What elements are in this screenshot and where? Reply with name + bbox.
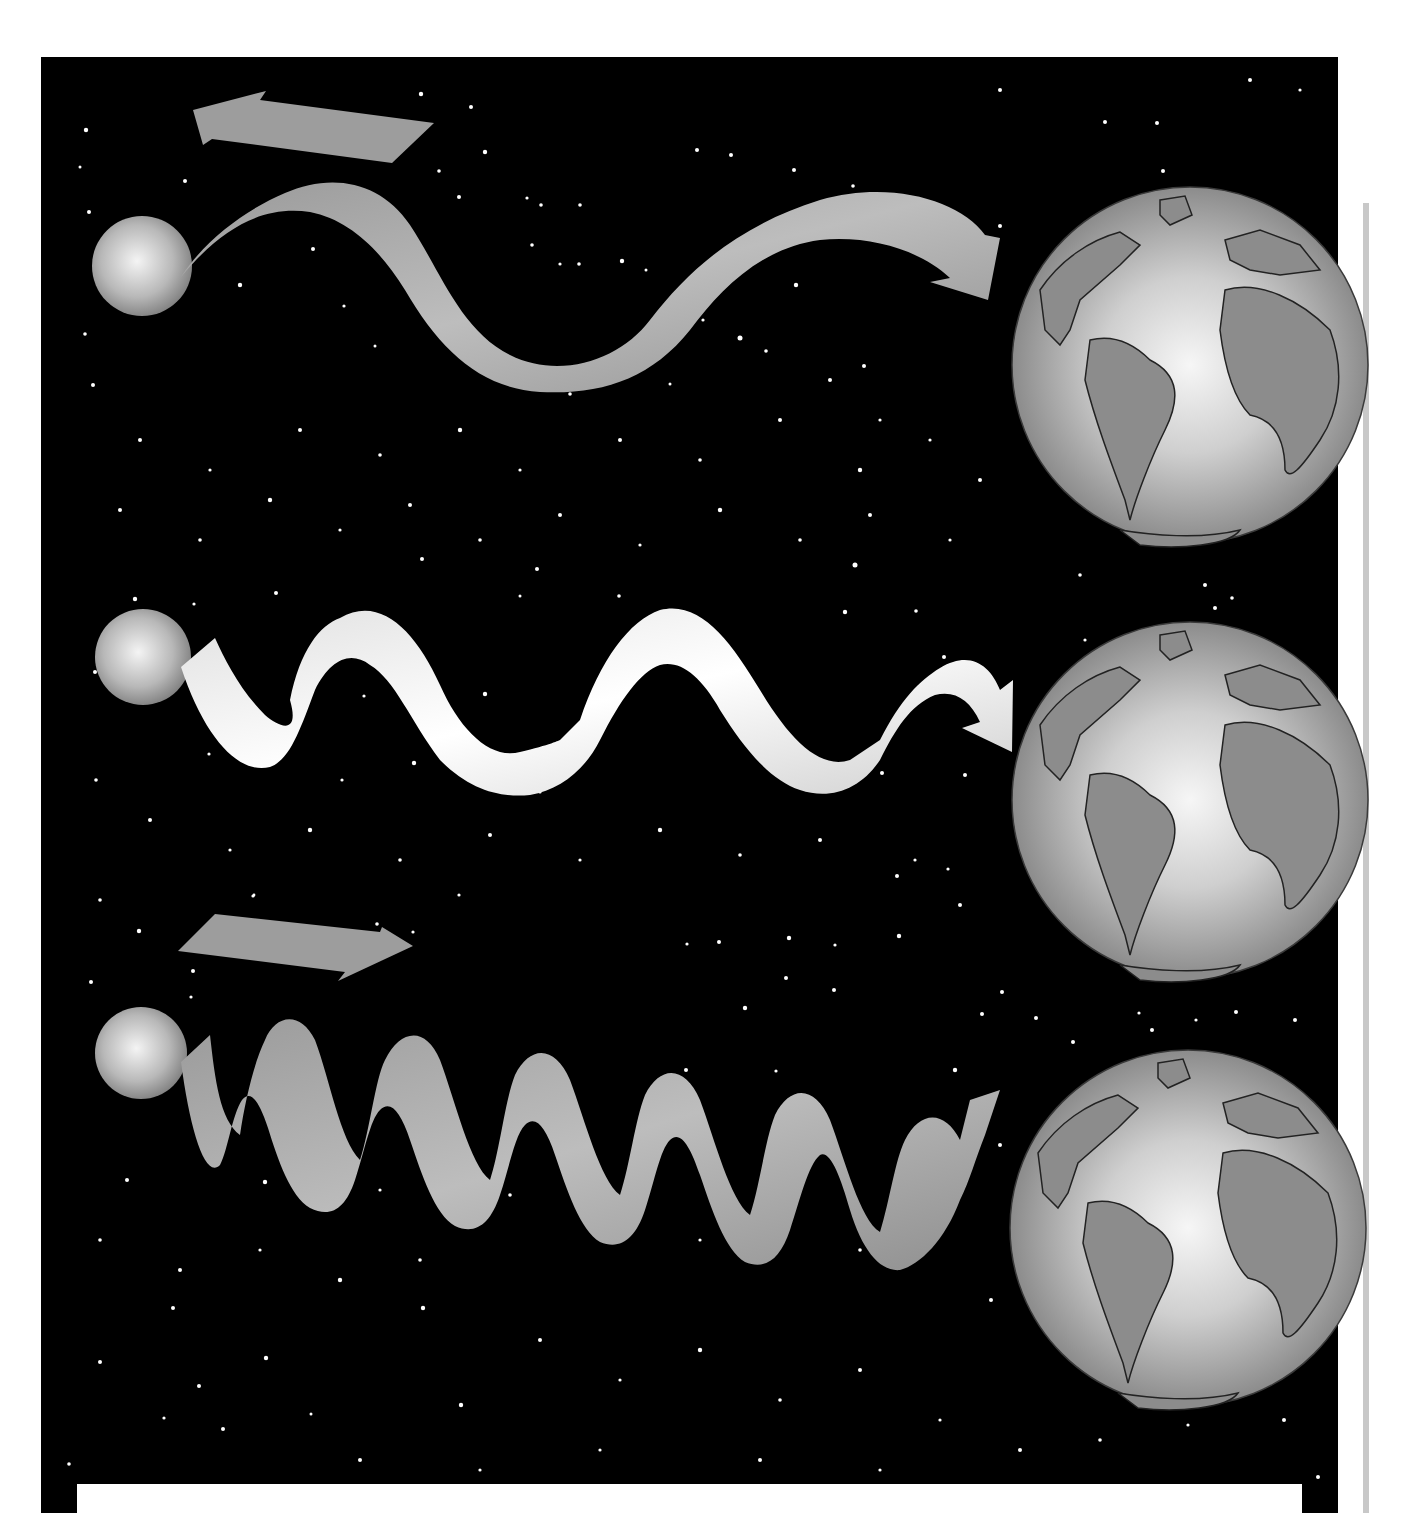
figure-stage: [0, 0, 1422, 1513]
source-star: [95, 1007, 187, 1099]
caption-box: [77, 1484, 1302, 1513]
source-star: [95, 609, 191, 705]
light-wave-short: [181, 1019, 1000, 1270]
row-receding: [92, 91, 1000, 392]
light-wave-medium: [181, 608, 1013, 795]
illustration: [0, 0, 1422, 1513]
row-approaching: [95, 914, 1000, 1270]
light-wave-long: [181, 182, 1000, 392]
earth-globe-bottom: [1010, 1050, 1366, 1410]
earth-globe-top: [1012, 187, 1368, 547]
motion-arrow-left-icon: [193, 91, 434, 163]
earth-globe-middle: [1012, 622, 1368, 982]
row-stationary: [95, 608, 1013, 795]
source-star: [92, 216, 192, 316]
